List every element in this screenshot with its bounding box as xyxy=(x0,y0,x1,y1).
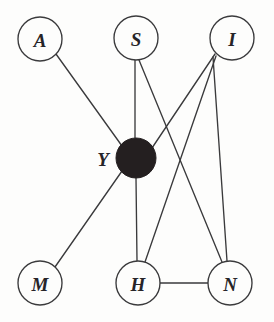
nodes-group xyxy=(18,16,254,305)
node-label-n: N xyxy=(222,274,238,295)
graph-edge xyxy=(152,54,215,148)
node-label-m: M xyxy=(31,274,50,295)
graph-canvas: ASIYMHN xyxy=(0,0,274,322)
node-label-y: Y xyxy=(97,149,111,170)
graph-edge xyxy=(136,178,137,261)
graph-node-y[interactable] xyxy=(116,138,156,178)
graph-edge xyxy=(55,171,122,267)
graph-edge xyxy=(56,54,122,146)
node-label-a: A xyxy=(33,30,47,51)
graph-diagram: ASIYMHN xyxy=(0,0,274,322)
node-label-i: I xyxy=(227,29,236,50)
node-label-s: S xyxy=(131,29,142,50)
node-label-h: H xyxy=(130,274,147,295)
graph-edge xyxy=(213,57,227,261)
